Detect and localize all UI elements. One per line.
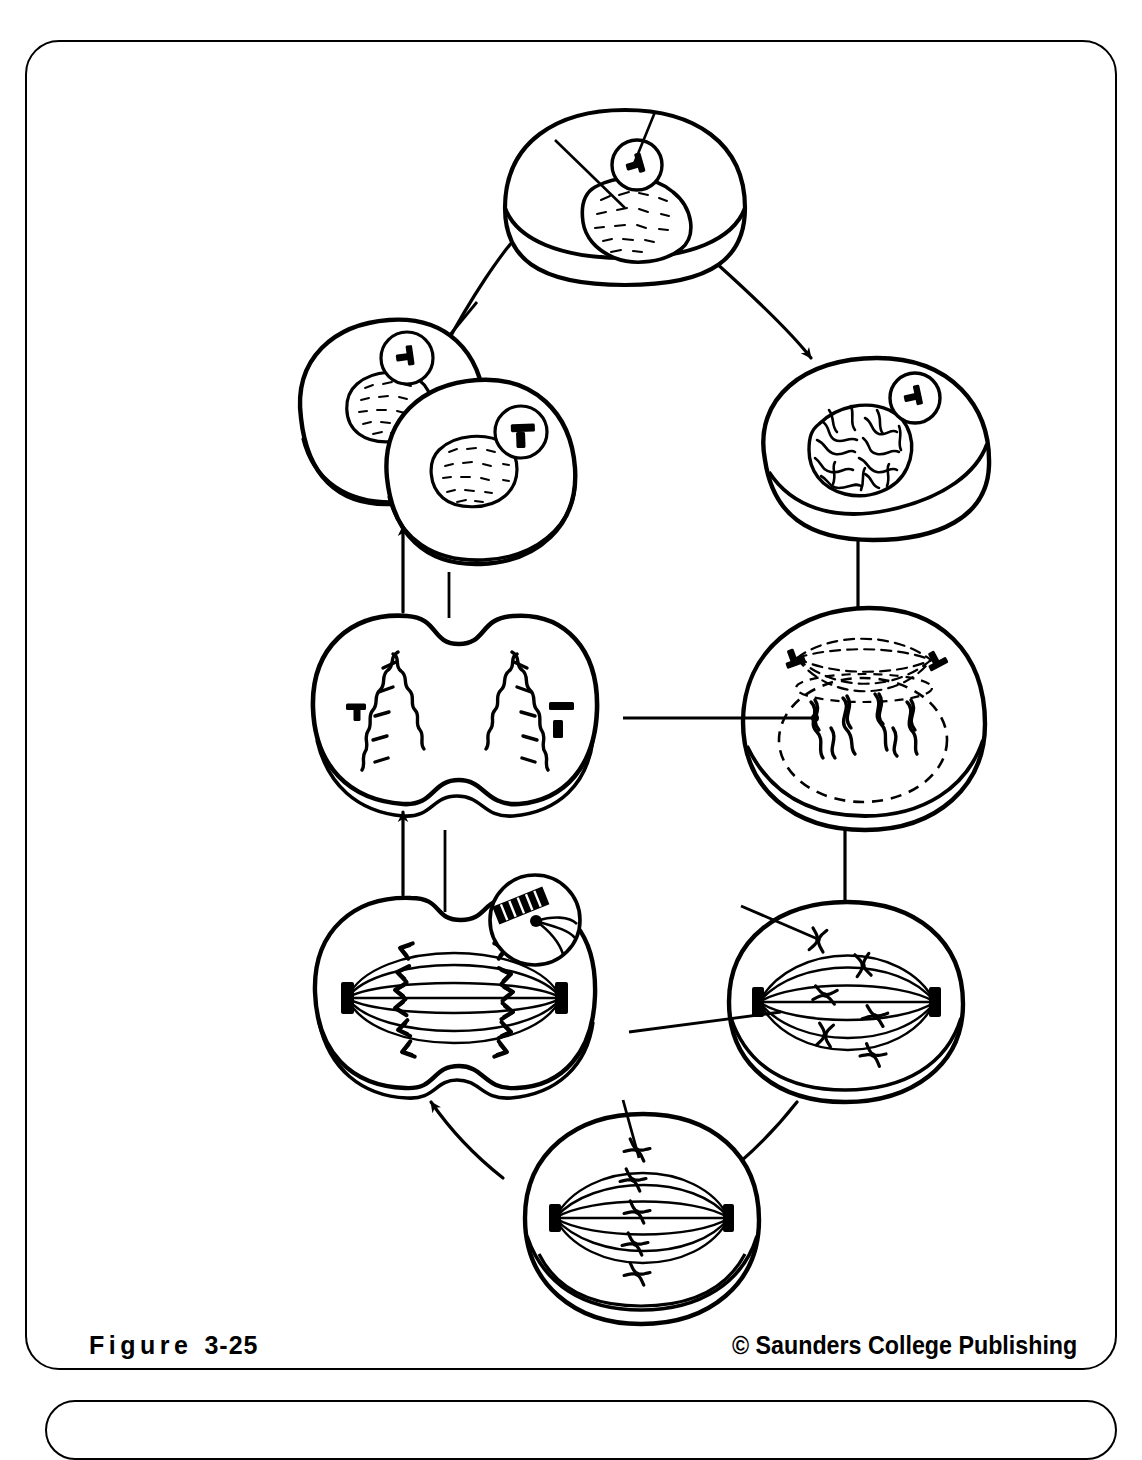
- telophase-cell: [313, 572, 597, 816]
- figure-label: Figure3-25: [89, 1331, 258, 1360]
- mitosis-cycle-diagram: [25, 40, 1117, 1370]
- interphase-cell: [505, 110, 745, 285]
- figure-label-number: 3-25: [204, 1331, 258, 1359]
- next-figure-border: [45, 1400, 1117, 1460]
- figure-label-word: Figure: [89, 1331, 192, 1359]
- arrow-daughter-cells-to-interphase: [443, 230, 523, 350]
- figure-caption-row: Figure3-25 © Saunders College Publishing: [25, 1320, 1117, 1370]
- daughter-cell-right: [386, 380, 575, 564]
- anaphase-cell: [315, 830, 595, 1098]
- copyright-notice: © Saunders College Publishing: [732, 1331, 1077, 1360]
- centriole-left: [752, 987, 764, 1017]
- early-prophase-cell: [763, 358, 989, 540]
- metaphase-cell: [629, 902, 963, 1102]
- arrow-metaphase-plate-to-anaphase: [431, 1102, 503, 1178]
- metaphase-plate-cell: [525, 1100, 759, 1324]
- centriole-left: [549, 1204, 561, 1232]
- centriole-right: [723, 1204, 734, 1232]
- late-prophase-cell: [623, 608, 985, 830]
- centriole-right: [929, 987, 941, 1017]
- centriole-left: [341, 982, 354, 1014]
- leader-line-daughter-cells: [449, 302, 477, 336]
- daughter-cells: [300, 302, 575, 564]
- centriole-right: [555, 982, 568, 1014]
- arrow-interphase-to-early-prophase: [715, 262, 811, 358]
